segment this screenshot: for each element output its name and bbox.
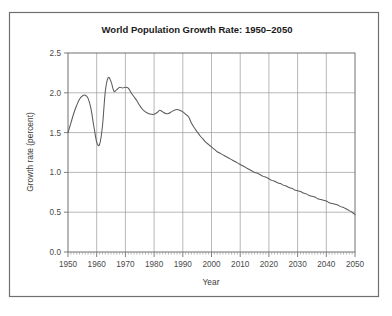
x-axis-tick-labels: 1950196019701980199020002010202020302040… xyxy=(59,260,365,269)
x-tick-label: 1970 xyxy=(116,260,135,269)
x-tick-label: 2050 xyxy=(346,260,365,269)
y-tick-label: 0.5 xyxy=(50,208,62,217)
x-tick-label: 1950 xyxy=(59,260,78,269)
x-tick-label: 2020 xyxy=(260,260,279,269)
y-tick-label: 2.5 xyxy=(50,49,62,58)
x-tick-label: 1960 xyxy=(88,260,107,269)
x-tick-label: 1990 xyxy=(174,260,193,269)
chart-figure: World Population Growth Rate: 1950–2050 … xyxy=(0,0,392,316)
x-tick-label: 2030 xyxy=(288,260,307,269)
x-axis-title: Year xyxy=(203,277,220,287)
y-tick-label: 1.5 xyxy=(50,129,62,138)
chart-title: World Population Growth Rate: 1950–2050 xyxy=(102,24,293,35)
y-axis-title: Growth rate (percent) xyxy=(25,112,35,192)
x-tick-label: 2010 xyxy=(231,260,250,269)
y-tick-label: 1.0 xyxy=(50,168,62,177)
x-tick-label: 2040 xyxy=(317,260,336,269)
x-tick-label: 2000 xyxy=(202,260,221,269)
plot-area xyxy=(64,53,355,257)
y-tick-label: 2.0 xyxy=(50,89,62,98)
x-tick-label: 1980 xyxy=(145,260,164,269)
y-tick-label: 0.0 xyxy=(50,248,62,257)
